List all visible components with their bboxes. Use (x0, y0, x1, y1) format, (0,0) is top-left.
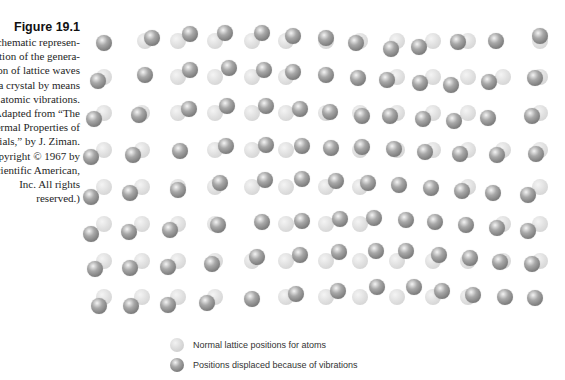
normal-lattice-atom (389, 289, 405, 305)
displaced-atom (462, 250, 478, 266)
displaced-atom (366, 210, 382, 226)
normal-lattice-atom (425, 33, 441, 49)
displaced-atom (86, 111, 102, 127)
normal-lattice-atom (352, 289, 368, 305)
displaced-atom (249, 249, 265, 265)
normal-lattice-atom (278, 142, 294, 158)
displaced-atom (348, 35, 364, 51)
displaced-atom (330, 283, 346, 299)
displaced-atom (144, 30, 160, 46)
displaced-atom (354, 108, 370, 124)
displaced-atom (217, 25, 233, 41)
displaced-atom (383, 41, 399, 57)
displaced-atom (122, 260, 138, 276)
displaced-atom (524, 256, 540, 272)
normal-lattice-atom (207, 69, 223, 85)
displaced-atom (411, 39, 427, 55)
displaced-atom (520, 187, 536, 203)
displaced-atom (450, 34, 466, 50)
displaced-atom (368, 243, 384, 259)
displaced-atom (254, 214, 270, 230)
displaced-atom (96, 35, 112, 51)
normal-atom-icon (170, 338, 184, 352)
displaced-atom (285, 28, 301, 44)
displaced-atom (91, 298, 107, 314)
displaced-atom (328, 173, 344, 189)
displaced-atom (137, 67, 153, 83)
displaced-atom (369, 279, 385, 295)
normal-lattice-atom (96, 216, 112, 232)
displaced-atom (172, 143, 188, 159)
displaced-atom (423, 180, 439, 196)
displaced-atom (212, 175, 228, 191)
displaced-atom (122, 185, 138, 201)
displaced-atom (199, 295, 215, 311)
displaced-atom (181, 101, 197, 117)
displaced-atom (318, 30, 334, 46)
displaced-atom (323, 140, 339, 156)
displaced-atom (520, 223, 536, 239)
displaced-atom (427, 214, 443, 230)
displaced-atom (288, 286, 304, 302)
normal-lattice-atom (495, 69, 511, 85)
displaced-atom (256, 62, 272, 78)
displaced-atom (162, 222, 178, 238)
displaced-atom (350, 70, 366, 86)
displaced-atom (294, 171, 310, 187)
displaced-atom (83, 149, 99, 165)
legend: Normal lattice positions for atoms Posit… (170, 335, 358, 375)
displaced-atom (360, 175, 376, 191)
displaced-atom (481, 74, 497, 90)
displaced-atom (218, 138, 234, 154)
displaced-atom (382, 108, 398, 124)
displaced-atom (322, 104, 338, 120)
displaced-atom (254, 25, 270, 41)
displaced-atom (294, 138, 310, 154)
displaced-atom (210, 217, 226, 233)
displaced-atom (332, 211, 348, 227)
displaced-atom (258, 137, 274, 153)
normal-lattice-atom (96, 179, 112, 195)
displaced-atom (204, 256, 220, 272)
displaced-atom (331, 244, 347, 260)
displaced-atom (417, 144, 433, 160)
displaced-atom (87, 261, 103, 277)
displaced-atom (489, 220, 505, 236)
displaced-atom (221, 60, 237, 76)
displaced-atom (182, 26, 198, 42)
displaced-atom (485, 185, 501, 201)
displaced-atom (83, 226, 99, 242)
displaced-atom (431, 247, 447, 263)
displaced-atom (292, 101, 308, 117)
displaced-atom (465, 287, 481, 303)
displaced-atom (398, 212, 414, 228)
displaced-atom (83, 189, 99, 205)
displaced-atom (258, 98, 274, 114)
normal-lattice-atom (460, 105, 476, 121)
displaced-atom (527, 70, 543, 86)
legend-label-displaced: Positions displaced because of vibration… (193, 360, 358, 370)
displaced-atom (454, 183, 470, 199)
displaced-atom (182, 62, 198, 78)
displaced-atom (443, 77, 459, 93)
displaced-atom (528, 146, 544, 162)
legend-label-normal: Normal lattice positions for atoms (193, 340, 326, 350)
displaced-atom (294, 213, 310, 229)
legend-item-displaced: Positions displaced because of vibration… (170, 355, 358, 375)
displaced-atom (488, 33, 504, 49)
displaced-atom (446, 113, 462, 129)
displaced-atom (497, 289, 513, 305)
normal-lattice-atom (352, 253, 368, 269)
displaced-atom (524, 108, 540, 124)
displaced-atom (527, 290, 543, 306)
displaced-atom (452, 146, 468, 162)
displaced-atom (160, 297, 176, 313)
displaced-atom (125, 147, 141, 163)
displaced-atom (292, 247, 308, 263)
displaced-atom (244, 291, 260, 307)
displaced-atom (160, 259, 176, 275)
displaced-atom (257, 172, 273, 188)
displaced-atom (458, 217, 474, 233)
displaced-atom (412, 75, 428, 91)
normal-lattice-atom (460, 69, 476, 85)
